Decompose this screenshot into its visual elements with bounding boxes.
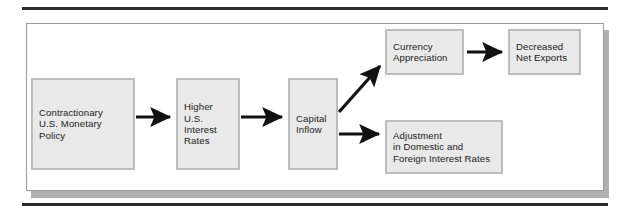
node-decreased-net-exports: Decreased Net Exports: [508, 29, 581, 75]
node-label: Adjustment in Domestic and Foreign Inter…: [387, 130, 494, 164]
bottom-rule: [22, 203, 608, 206]
node-adjustment-in-domestic-and-foreign-interest-rates: Adjustment in Domestic and Foreign Inter…: [385, 120, 503, 174]
node-label: Currency Appreciation: [387, 41, 452, 64]
node-capital-inflow: Capital Inflow: [288, 78, 338, 170]
node-currency-appreciation: Currency Appreciation: [385, 29, 464, 75]
node-label: Contractionary U.S. Monetary Policy: [33, 107, 107, 141]
top-rule: [22, 7, 608, 10]
node-label: Capital Inflow: [290, 113, 331, 136]
figure-container: Contractionary U.S. Monetary Policy High…: [0, 0, 621, 210]
node-higher-us-interest-rates: Higher U.S. Interest Rates: [176, 78, 240, 170]
node-contractionary-us-monetary-policy: Contractionary U.S. Monetary Policy: [31, 78, 135, 170]
node-label: Decreased Net Exports: [510, 41, 571, 64]
node-label: Higher U.S. Interest Rates: [178, 101, 221, 147]
